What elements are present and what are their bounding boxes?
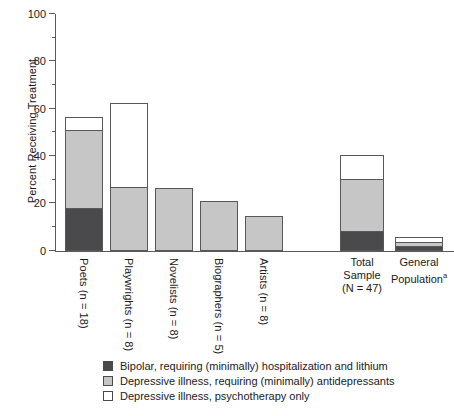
y-tick-minor — [52, 226, 56, 227]
bar-4 — [200, 201, 238, 250]
legend-swatch-psychotherapy-icon — [103, 391, 113, 401]
y-tick-major — [49, 108, 55, 109]
y-axis-title: Percent Receiving Treatment — [26, 41, 38, 221]
y-tick-minor — [52, 131, 56, 132]
bar-segment-grey — [66, 131, 102, 209]
y-tick-label: 20 — [34, 198, 46, 209]
bar-segment-white — [341, 156, 383, 180]
x-label-line1: Total — [350, 256, 373, 268]
bar-5 — [245, 216, 283, 251]
legend-item-bipolar: Bipolar, requiring (minimally) hospitali… — [103, 360, 395, 372]
legend-label-psychotherapy: Depressive illness, psychotherapy only — [120, 390, 310, 402]
bar-1 — [65, 117, 103, 250]
y-tick-minor — [52, 84, 56, 85]
chart-figure: Percent Receiving Treatment 100806040200… — [0, 0, 454, 416]
bar-segment-grey — [111, 188, 147, 250]
y-tick-major — [49, 202, 55, 203]
bar-2 — [110, 103, 148, 251]
x-label-4: Biographers (n = 5) — [213, 258, 225, 354]
bar-segment-grey — [156, 189, 192, 249]
y-tick-major — [49, 250, 55, 251]
x-label-line1: General — [399, 256, 438, 268]
y-tick-major — [49, 13, 55, 14]
plot-area: 100806040200 — [55, 14, 454, 252]
x-label-7: GeneralPopulationa — [374, 256, 454, 286]
bar-segment-grey — [246, 217, 282, 250]
x-label-line2: Populationa — [391, 273, 447, 285]
chart-legend: Bipolar, requiring (minimally) hospitali… — [103, 360, 395, 405]
y-tick-minor — [52, 179, 56, 180]
bar-segment-grey — [341, 180, 383, 232]
y-tick-label: 80 — [34, 56, 46, 67]
bar-segment-dark — [341, 232, 383, 250]
y-tick-label: 60 — [34, 103, 46, 114]
bar-segment-dark — [66, 209, 102, 250]
bar-segment-grey — [201, 202, 237, 249]
x-label-5: Artists (n = 8) — [258, 258, 270, 325]
x-label-1: Poets (n = 18) — [78, 258, 90, 329]
x-axis-line — [55, 251, 454, 252]
bar-3 — [155, 188, 193, 250]
bar-segment-dark — [396, 247, 442, 249]
x-label-2: Playwrights (n = 8) — [123, 258, 135, 351]
bar-segment-white — [111, 104, 147, 188]
y-tick-label: 100 — [28, 9, 46, 20]
legend-label-antidepressants: Depressive illness, requiring (minimally… — [120, 375, 395, 387]
bar-7 — [395, 237, 443, 251]
bar-segment-white — [66, 118, 102, 131]
legend-swatch-antidepressants-icon — [103, 376, 113, 386]
legend-label-bipolar: Bipolar, requiring (minimally) hospitali… — [120, 360, 388, 372]
y-tick-major — [49, 60, 55, 61]
legend-item-psychotherapy: Depressive illness, psychotherapy only — [103, 390, 395, 402]
y-tick-major — [49, 155, 55, 156]
y-axis-line — [55, 14, 56, 252]
y-tick-minor — [52, 37, 56, 38]
bar-6 — [340, 155, 384, 251]
footnote-marker: a — [443, 271, 447, 280]
legend-item-antidepressants: Depressive illness, requiring (minimally… — [103, 375, 395, 387]
y-tick-label: 40 — [34, 151, 46, 162]
x-label-3: Novelists (n = 8) — [168, 258, 180, 339]
legend-swatch-bipolar-icon — [103, 361, 113, 371]
y-tick-label: 0 — [40, 245, 46, 256]
